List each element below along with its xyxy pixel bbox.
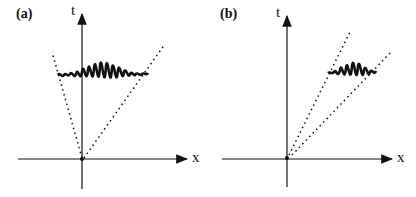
cone-line-steep xyxy=(289,32,350,155)
panel-b-diagram xyxy=(208,0,416,197)
x-axis-label-a: x xyxy=(192,149,200,166)
cone-line-right xyxy=(84,44,165,158)
panel-label-b: (b) xyxy=(220,6,237,22)
panel-b: (b) t x xyxy=(208,0,416,197)
panel-label-a: (a) xyxy=(16,6,32,22)
cone-line-left xyxy=(52,52,82,158)
t-axis-label-a: t xyxy=(71,2,75,19)
t-axis-label-b: t xyxy=(276,4,280,21)
panel-a: (a) t x xyxy=(0,0,208,197)
wave-packet-a xyxy=(58,63,148,78)
wave-packet-b xyxy=(328,63,376,75)
panel-a-diagram xyxy=(0,0,208,197)
x-axis-label-b: x xyxy=(397,149,405,166)
